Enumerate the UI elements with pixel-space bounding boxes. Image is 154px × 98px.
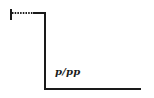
dynamic-marking-label: p/pp [55, 66, 80, 78]
dynamics-diagram: p/pp [0, 0, 154, 98]
contour-graphic [0, 0, 154, 98]
